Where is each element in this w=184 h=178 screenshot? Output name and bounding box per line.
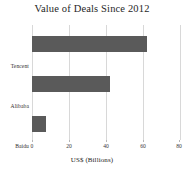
tick-label-0: 0 [31,143,34,149]
bar-alibaba [32,76,110,92]
category-label-alibaba: Alibaba [1,103,29,109]
tick-label-60: 60 [140,143,146,149]
bar-baidu [32,116,46,132]
tick-label-40: 40 [103,143,109,149]
tick-mark-20 [69,140,70,142]
bar-chart: Value of Deals Since 2012 Tencent Alibab… [0,0,184,178]
category-label-baidu: Baidu [1,143,29,149]
tick-label-20: 20 [66,143,72,149]
category-axis-labels: Tencent Alibaba Baidu [0,25,29,140]
x-axis: 0 20 40 60 80 [32,140,180,154]
x-axis-title: US$ (Billions) [0,156,184,164]
tick-label-80: 80 [176,143,182,149]
category-label-tencent: Tencent [1,63,29,69]
chart-title: Value of Deals Since 2012 [0,3,184,14]
gridline-80 [180,25,181,140]
tick-mark-0 [32,140,33,142]
bar-tencent [32,36,147,52]
tick-mark-40 [106,140,107,142]
tick-mark-60 [143,140,144,142]
plot-area [32,25,180,140]
tick-mark-80 [179,140,180,142]
